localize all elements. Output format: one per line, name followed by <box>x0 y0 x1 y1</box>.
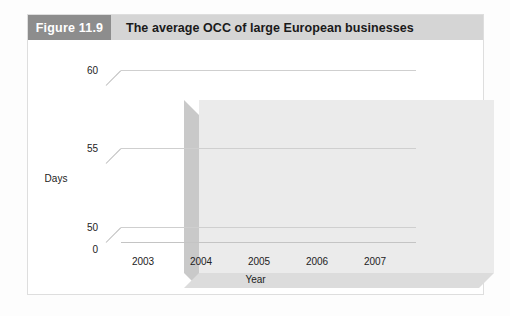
x-tick-2005: 2005 <box>231 256 287 267</box>
x-tick-2006: 2006 <box>289 256 345 267</box>
figure-header-bar: Figure 11.9 The average OCC of large Eur… <box>28 15 483 40</box>
gridline-baseline <box>121 242 416 243</box>
x-tick-2004: 2004 <box>173 256 229 267</box>
figure-container: Figure 11.9 The average OCC of large Eur… <box>27 14 484 295</box>
figure-title: The average OCC of large European busine… <box>111 15 483 40</box>
plot-back-wall <box>199 100 494 273</box>
y-tick-55: 55 <box>66 143 98 154</box>
y-tick-50: 50 <box>66 222 98 233</box>
y-axis-title: Days <box>36 173 76 184</box>
y-tick-60: 60 <box>66 65 98 76</box>
chart-canvas: 60 55 50 0 Days 58.1 53.2 58.9 <box>28 40 483 294</box>
y-tick-0: 0 <box>66 244 98 255</box>
plot-area <box>106 70 416 258</box>
x-tick-2003: 2003 <box>115 256 171 267</box>
gridline-55 <box>121 148 416 149</box>
x-tick-2007: 2007 <box>347 256 403 267</box>
gridline-50 <box>121 227 416 228</box>
gridline-60 <box>121 70 416 71</box>
figure-number-label: Figure 11.9 <box>28 15 111 40</box>
x-axis-title: Year <box>28 274 483 285</box>
